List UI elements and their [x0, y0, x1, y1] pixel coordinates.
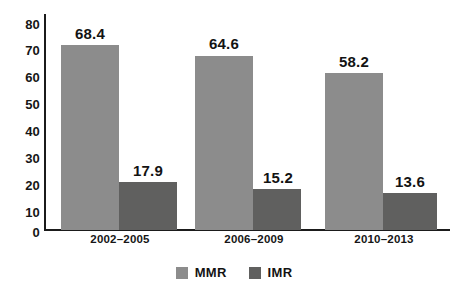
legend-swatch-icon-imr — [249, 267, 261, 279]
legend-item-mmr[interactable]: MMR — [176, 266, 227, 279]
y-tick-label-60: 60 — [6, 71, 40, 84]
y-tick-label-20: 20 — [6, 179, 40, 192]
bar-value-label-mmr-2: 58.2 — [325, 54, 383, 69]
bar-value-label-mmr-0: 68.4 — [61, 26, 119, 41]
bar-mmr-2[interactable] — [325, 73, 383, 230]
y-tick-label-10: 10 — [6, 206, 40, 219]
bar-group-1: 64.6 15.2 — [195, 14, 313, 230]
x-category-label-0: 2002–2005 — [61, 234, 179, 246]
y-tick-label-40: 40 — [6, 125, 40, 138]
bar-chart: 80 70 60 50 40 30 20 10 0 68.4 17.9 64.6… — [0, 0, 468, 297]
bar-group-2: 58.2 13.6 — [325, 14, 443, 230]
bar-imr-1[interactable] — [253, 189, 301, 230]
bar-mmr-0[interactable] — [61, 45, 119, 230]
chart-legend: MMR IMR — [0, 266, 468, 279]
x-category-label-1: 2006–2009 — [195, 234, 313, 246]
y-tick-label-50: 50 — [6, 98, 40, 111]
legend-item-imr[interactable]: IMR — [249, 266, 293, 279]
bar-value-label-imr-0: 17.9 — [119, 163, 177, 178]
bar-value-label-imr-2: 13.6 — [381, 174, 439, 189]
y-tick-label-80: 80 — [6, 18, 40, 31]
bar-value-label-imr-1: 15.2 — [249, 170, 307, 185]
legend-label-imr: IMR — [268, 266, 293, 279]
bar-value-label-mmr-1: 64.6 — [195, 36, 253, 51]
legend-label-mmr: MMR — [195, 266, 227, 279]
legend-swatch-icon-mmr — [176, 267, 188, 279]
bar-group-0: 68.4 17.9 — [61, 14, 179, 230]
bar-imr-0[interactable] — [119, 182, 177, 230]
bar-imr-2[interactable] — [383, 193, 437, 230]
y-tick-label-30: 30 — [6, 152, 40, 165]
bar-mmr-1[interactable] — [195, 56, 253, 230]
bar-groups: 68.4 17.9 64.6 15.2 58.2 13.6 — [46, 14, 450, 230]
y-axis-tick-labels: 80 70 60 50 40 30 20 10 0 — [0, 0, 40, 297]
y-tick-label-0: 0 — [6, 226, 40, 239]
x-category-label-2: 2010–2013 — [325, 234, 443, 246]
y-tick-label-70: 70 — [6, 44, 40, 57]
